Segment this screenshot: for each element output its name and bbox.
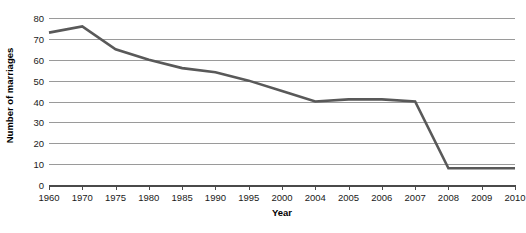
y-axis-tick-label: 40: [33, 96, 44, 107]
y-axis-tick-labels: 01020304050607080: [20, 0, 46, 190]
x-axis-tick-label: 2008: [438, 192, 459, 203]
x-axis-tick-mark: [149, 185, 150, 190]
y-axis-tick-label: 0: [39, 180, 44, 191]
x-axis-tick-label: 2007: [405, 192, 426, 203]
x-axis-tick-mark: [315, 185, 316, 190]
x-axis-tick-mark: [415, 185, 416, 190]
x-axis-tick-label: 2005: [338, 192, 359, 203]
x-axis-tick-label: 1970: [72, 192, 93, 203]
x-axis-tick-mark: [182, 185, 183, 190]
y-axis-tick-label: 30: [33, 117, 44, 128]
x-axis-tick-label: 1985: [172, 192, 193, 203]
x-axis-tick-mark: [82, 185, 83, 190]
x-axis-tick-label: 2009: [471, 192, 492, 203]
y-axis-tick-label: 60: [33, 54, 44, 65]
y-axis-title-text: Number of marriages: [5, 47, 16, 143]
x-axis-tick-label: 1980: [138, 192, 159, 203]
x-axis-tick-mark: [282, 185, 283, 190]
x-axis-tick-mark: [49, 185, 50, 190]
x-axis-title: Year: [49, 207, 515, 218]
x-axis-tick-mark: [515, 185, 516, 190]
x-axis-tick-mark: [482, 185, 483, 190]
y-axis-tick-label: 10: [33, 159, 44, 170]
y-axis-tick-label: 70: [33, 33, 44, 44]
plot-area: [49, 18, 515, 185]
series-line-number-of-marriages: [49, 18, 515, 185]
x-axis-tick-label: 2006: [371, 192, 392, 203]
x-axis-tick-mark: [382, 185, 383, 190]
x-axis-tick-label: 2004: [305, 192, 326, 203]
y-axis-tick-label: 20: [33, 138, 44, 149]
x-axis-tick-marks: [49, 185, 515, 190]
x-axis-tick-label: 2000: [271, 192, 292, 203]
x-axis-tick-label: 1975: [105, 192, 126, 203]
x-axis-tick-labels: 1960197019751980198519901995200020042005…: [49, 192, 515, 206]
x-axis-tick-mark: [448, 185, 449, 190]
y-axis-tick-label: 50: [33, 75, 44, 86]
x-axis-tick-label: 1995: [238, 192, 259, 203]
y-axis-tick-label: 80: [33, 13, 44, 24]
x-axis-tick-mark: [116, 185, 117, 190]
x-axis-tick-mark: [249, 185, 250, 190]
x-axis-tick-label: 1960: [38, 192, 59, 203]
y-axis-title: Number of marriages: [0, 0, 20, 190]
x-axis-tick-label: 2010: [504, 192, 525, 203]
x-axis-tick-mark: [349, 185, 350, 190]
x-axis-tick-mark: [215, 185, 216, 190]
x-axis-tick-label: 1990: [205, 192, 226, 203]
